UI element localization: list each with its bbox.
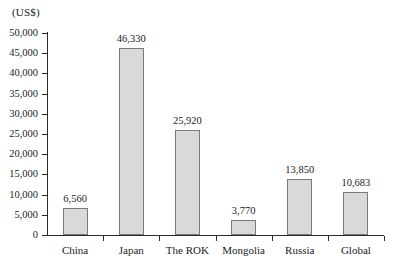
y-axis-tick-label: 10,000 xyxy=(9,189,38,200)
x-axis-tick xyxy=(328,236,329,241)
x-axis-tick xyxy=(159,236,160,241)
bar-value-label: 3,770 xyxy=(232,206,256,217)
x-axis-tick xyxy=(272,236,273,241)
y-axis-tick xyxy=(42,195,47,196)
x-axis-category-label: Russia xyxy=(285,245,314,256)
x-axis-category-label: Mongolia xyxy=(222,245,265,256)
x-axis-category-label: Global xyxy=(341,245,371,256)
y-axis-tick-label: 5,000 xyxy=(14,210,38,221)
bar-chart: (US$) 05,00010,00015,00020,00025,00030,0… xyxy=(0,0,397,270)
y-axis-tick xyxy=(42,215,47,216)
y-axis-tick-label: 30,000 xyxy=(9,109,38,120)
x-axis-category-label: China xyxy=(62,245,88,256)
y-axis-tick xyxy=(42,53,47,54)
bar-value-label: 6,560 xyxy=(63,194,87,205)
bar xyxy=(63,208,88,235)
bar xyxy=(343,192,368,235)
x-axis-tick xyxy=(384,236,385,241)
bar xyxy=(175,130,200,235)
y-axis-tick xyxy=(42,134,47,135)
bar-value-label: 46,330 xyxy=(117,34,146,45)
y-axis-tick-label: 25,000 xyxy=(9,129,38,140)
y-axis-tick-label: 15,000 xyxy=(9,169,38,180)
y-axis-tick-label: 40,000 xyxy=(9,68,38,79)
x-axis-category-label: The ROK xyxy=(166,245,209,256)
y-axis-tick xyxy=(42,114,47,115)
bar-value-label: 13,850 xyxy=(285,165,314,176)
y-axis-tick-label: 20,000 xyxy=(9,149,38,160)
y-axis-tick-label: 45,000 xyxy=(9,48,38,59)
bar-value-label: 25,920 xyxy=(173,116,202,127)
y-axis-tick-label: 0 xyxy=(33,230,38,241)
y-axis-unit-caption: (US$) xyxy=(12,6,40,18)
bar xyxy=(231,220,256,235)
x-axis-tick xyxy=(103,236,104,241)
y-axis-tick xyxy=(42,33,47,34)
y-axis-line xyxy=(47,32,48,236)
bar-value-label: 10,683 xyxy=(341,178,370,189)
y-axis-tick xyxy=(42,235,47,236)
x-axis-category-label: Japan xyxy=(119,245,144,256)
y-axis-tick xyxy=(42,94,47,95)
y-axis-tick xyxy=(42,174,47,175)
x-axis-tick xyxy=(216,236,217,241)
bar xyxy=(287,179,312,235)
y-axis-tick xyxy=(42,73,47,74)
y-axis-tick-label: 35,000 xyxy=(9,88,38,99)
y-axis-tick-label: 50,000 xyxy=(9,28,38,39)
y-axis-tick xyxy=(42,154,47,155)
bar xyxy=(119,48,144,235)
